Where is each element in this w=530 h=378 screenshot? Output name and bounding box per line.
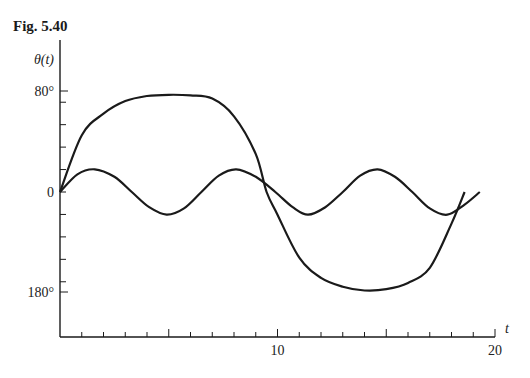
chart-canvas: 102080°0180°θ(t)t bbox=[0, 0, 530, 378]
y-axis-title: θ(t) bbox=[34, 52, 54, 68]
curve-large-amplitude bbox=[60, 95, 465, 291]
axes bbox=[60, 40, 495, 337]
y-tick-label: 180° bbox=[27, 285, 54, 300]
x-tick-label: 10 bbox=[271, 343, 285, 358]
plot-curves bbox=[60, 95, 480, 291]
curve-small-amplitude bbox=[60, 169, 480, 215]
x-tick-label: 20 bbox=[488, 343, 502, 358]
y-tick-label: 0 bbox=[47, 185, 54, 200]
y-tick-label: 80° bbox=[34, 84, 54, 99]
axis-labels: 102080°0180°θ(t)t bbox=[27, 52, 510, 358]
x-axis-title: t bbox=[505, 321, 510, 336]
